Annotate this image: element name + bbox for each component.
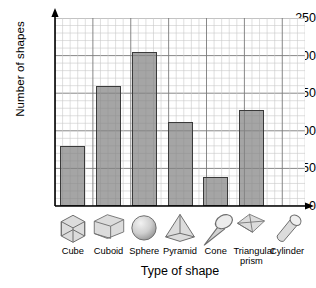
cylinder-icon <box>269 209 305 245</box>
category-label: Cylinder <box>269 246 305 256</box>
category-cuboid: Cuboid <box>91 208 127 256</box>
bar-sphere <box>132 52 157 206</box>
category-cone: Cone <box>198 208 234 256</box>
cuboid-icon <box>91 209 127 245</box>
bar-cube <box>60 146 85 206</box>
category-label: Triangular prism <box>233 246 269 266</box>
category-cube: Cube <box>55 208 91 256</box>
cone-icon <box>198 209 234 245</box>
category-label: Cube <box>55 246 91 256</box>
cube-icon <box>55 209 91 245</box>
category-label: Sphere <box>126 246 162 256</box>
y-axis-title: Number of shapes <box>11 2 29 136</box>
pyramid-icon <box>162 209 198 245</box>
category-pyramid: Pyramid <box>162 208 198 256</box>
category-triangular-prism: Triangular prism <box>233 208 269 266</box>
bar-pyramid <box>168 122 193 206</box>
bar-cuboid <box>96 86 121 206</box>
x-axis-categories: CubeCuboidSpherePyramidConeTriangular pr… <box>55 208 305 270</box>
category-label: Pyramid <box>162 246 198 256</box>
category-cylinder: Cylinder <box>269 208 305 256</box>
bar-triangular-prism <box>239 110 264 206</box>
category-sphere: Sphere <box>126 208 162 256</box>
triangular-prism-icon <box>233 209 269 245</box>
category-label: Cuboid <box>91 246 127 256</box>
bar-cone <box>203 177 228 206</box>
bar-chart: Number of shapes 050100150200250 CubeCub… <box>0 0 316 288</box>
x-axis-title: Type of shape <box>55 264 305 278</box>
plot-area <box>55 18 305 206</box>
sphere-icon <box>126 209 162 245</box>
